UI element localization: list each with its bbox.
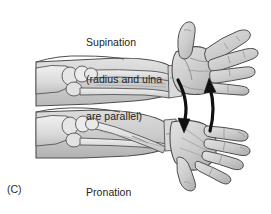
supination-line-1: Supination	[86, 36, 162, 48]
panel-label: (C)	[7, 183, 22, 195]
supination-caption: Supination (radius and ulna are parallel…	[86, 11, 162, 147]
pronation-line-1: Pronation	[86, 186, 154, 198]
supination-line-3: are parallel)	[86, 110, 162, 122]
anatomy-figure: Supination (radius and ulna are parallel…	[0, 0, 271, 214]
rotation-arrow-up-shaft	[210, 88, 213, 131]
pronation-caption: Pronation (radius rotates over ulna)	[86, 161, 154, 214]
supination-line-2: (radius and ulna	[86, 73, 162, 85]
